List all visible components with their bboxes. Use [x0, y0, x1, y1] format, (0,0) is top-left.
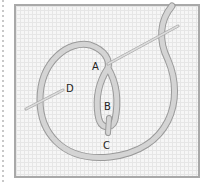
label-a: A — [92, 61, 99, 72]
label-b: B — [104, 101, 111, 112]
stitch-diagram: A B C D — [0, 0, 208, 185]
label-d: D — [66, 83, 74, 94]
label-c: C — [103, 140, 110, 151]
